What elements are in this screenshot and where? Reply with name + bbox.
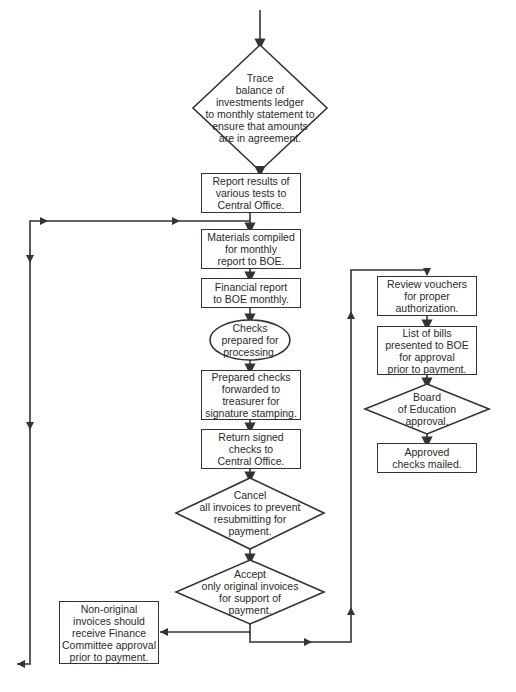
node-review-vouchers: Review vouchers for proper authorization… (377, 276, 477, 316)
node-trace-label: Trace balance of investments ledger to m… (193, 60, 327, 156)
node-list-of-bills: List of bills presented to BOE for appro… (377, 326, 477, 375)
node-approved-checks: Approved checks mailed. (377, 443, 477, 473)
node-financial-report: Financial report to BOE monthly. (201, 278, 301, 308)
node-cancel-label: Cancel all invoices to prevent resubmitt… (176, 488, 324, 538)
node-checks-prepared: Checks prepared for processing. (210, 320, 290, 360)
node-return-signed: Return signed checks to Central Office. (201, 429, 301, 469)
node-board-label: Board of Education approval. (365, 390, 489, 428)
node-accept-label: Accept only original invoices for suppor… (176, 567, 324, 617)
arrow-accept-to-non-original (160, 624, 250, 632)
node-materials-compiled: Materials compiled for monthly report to… (201, 229, 301, 269)
node-prepared-checks: Prepared checks forwarded to treasurer f… (201, 370, 301, 420)
node-report-results: Report results of various tests to Centr… (201, 173, 301, 213)
node-non-original: Non-original invoices should receive Fin… (59, 601, 159, 664)
flowchart: Trace balance of investments ledger to m… (0, 0, 516, 692)
